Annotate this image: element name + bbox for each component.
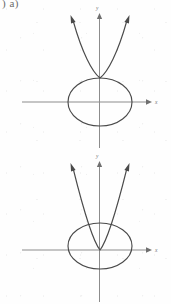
parabola-right-arrowhead — [124, 163, 129, 171]
top-plot: x y — [0, 0, 171, 152]
parabola-left-arrowhead — [71, 163, 76, 171]
top-plot-svg: x y — [0, 0, 171, 152]
y-axis-arrowhead — [97, 13, 102, 19]
parabola-left-arrowhead — [71, 15, 76, 23]
parabola-right-arrowhead — [124, 15, 129, 23]
x-axis-arrowhead — [146, 99, 152, 104]
bottom-plot-svg: x y — [0, 152, 171, 304]
y-axis-label: y — [95, 153, 99, 159]
y-axis-arrowhead — [97, 161, 102, 167]
figure-root: ) a) x y x — [0, 0, 171, 304]
x-axis-arrowhead — [146, 247, 152, 252]
y-axis-label: y — [95, 5, 99, 11]
x-axis-label: x — [154, 247, 158, 253]
x-axis-label: x — [154, 99, 158, 105]
bottom-plot: x y — [0, 152, 171, 304]
